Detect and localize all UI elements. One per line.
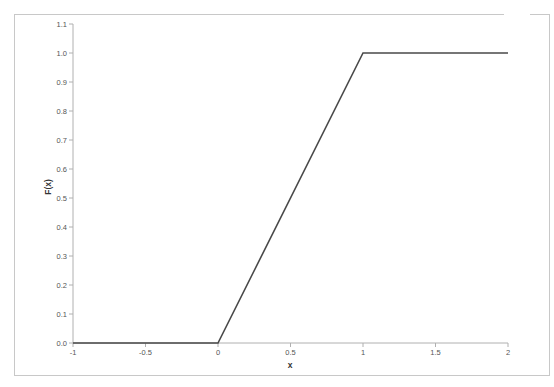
y-tick-label: 0.6 [57,165,67,174]
y-tick-label: 0.1 [57,310,67,319]
y-tick-label: 0.3 [57,252,67,261]
y-tick-label: 0.9 [57,78,67,87]
x-tick-label: 1 [361,348,365,357]
x-axis-label: x [288,360,293,370]
y-tick-label: 0.2 [57,281,67,290]
x-tick-label: 2 [506,348,510,357]
y-axis: 0.00.10.20.30.40.50.60.70.80.91.01.1 [57,20,73,348]
y-tick-label: 1.0 [57,49,67,58]
cdf-line [73,53,508,343]
series-layer [73,53,508,343]
x-tick-label: -1 [70,348,77,357]
y-tick-label: 0.0 [57,339,67,348]
y-tick-label: 0.7 [57,136,67,145]
x-tick-label: 0.5 [285,348,295,357]
x-tick-label: 1.5 [430,348,440,357]
y-tick-label: 0.4 [57,223,67,232]
cdf-chart: 0.00.10.20.30.40.50.60.70.80.91.01.1 -1-… [0,0,554,387]
y-tick-label: 0.5 [57,194,67,203]
y-tick-label: 0.8 [57,107,67,116]
x-tick-label: -0.5 [139,348,152,357]
x-axis: -1-0.500.511.52 [70,343,510,357]
x-tick-label: 0 [216,348,220,357]
y-tick-label: 1.1 [57,20,67,29]
y-axis-label: F(x) [43,179,53,195]
